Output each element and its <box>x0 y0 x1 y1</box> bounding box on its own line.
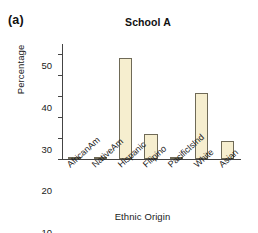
plot-area: 01020304050 AfricanAmNativeAmHispanicFil… <box>62 44 240 159</box>
y-tick-label: 20 <box>41 185 52 196</box>
y-tick-label: 10 <box>41 227 52 233</box>
chart-title: School A <box>0 16 258 28</box>
chart-figure: (a) School A Percentage 01020304050 Afri… <box>0 0 258 233</box>
y-tick-mark: 0 <box>58 159 62 160</box>
y-axis-label: Percentage <box>15 23 26 117</box>
x-axis-label: Ethnic Origin <box>40 211 245 222</box>
y-tick-label: 50 <box>41 59 52 70</box>
y-tick-label: 40 <box>41 101 52 112</box>
y-tick-label: 30 <box>41 143 52 154</box>
